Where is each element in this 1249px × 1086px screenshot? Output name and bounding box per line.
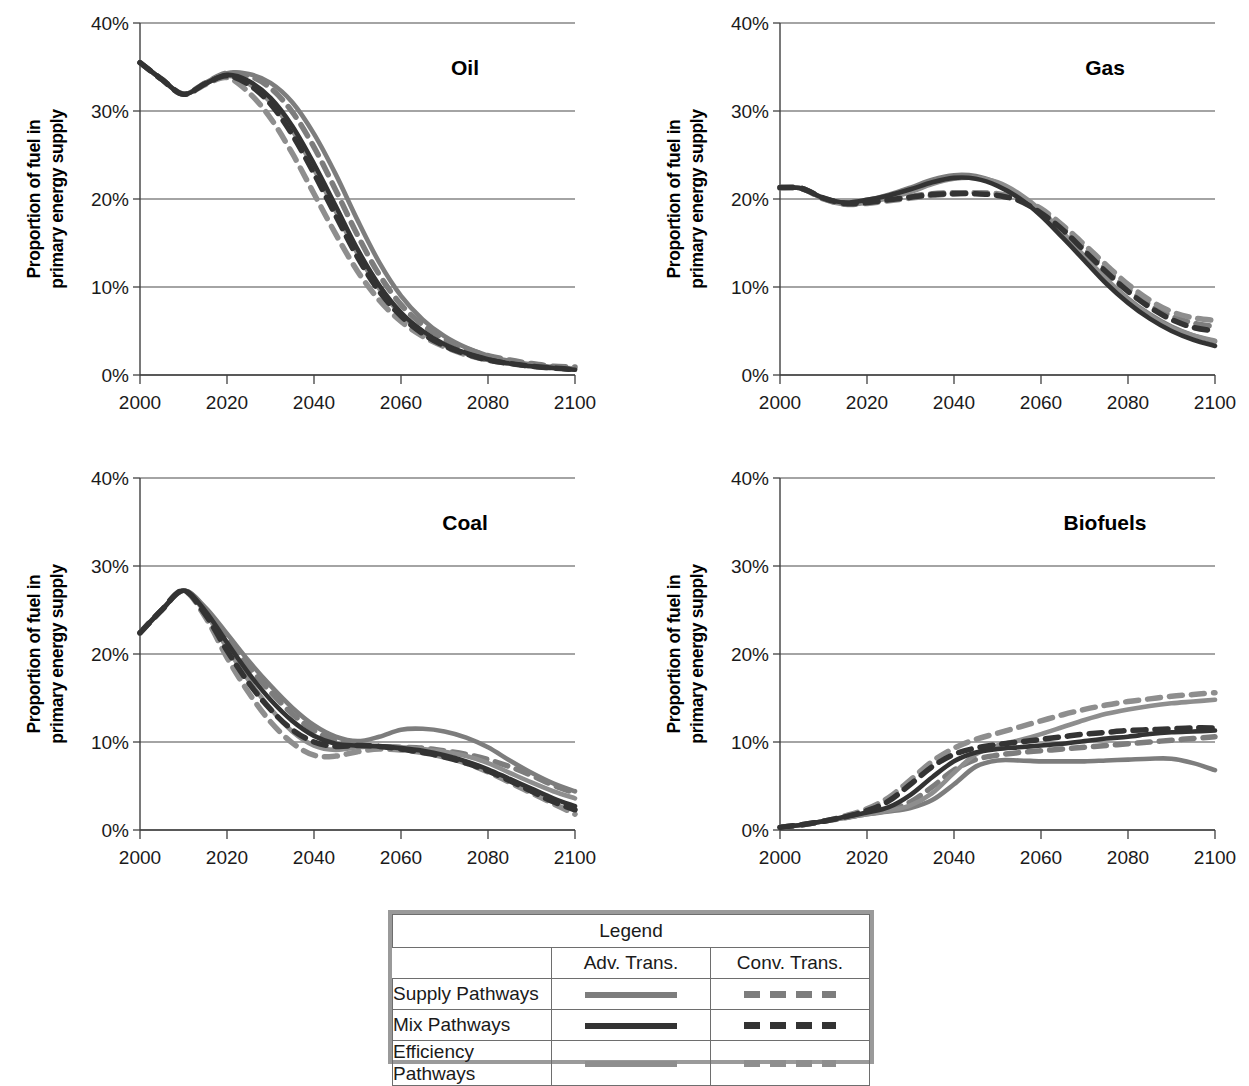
x-tick-label-2040: 2040	[933, 847, 975, 868]
legend-swatch-mix-adv	[552, 1010, 711, 1041]
y-tick-label-0pct: 0%	[742, 820, 770, 841]
y-tick-label-40pct: 40%	[91, 468, 129, 489]
y-tick-label-30pct: 30%	[731, 101, 769, 122]
legend: Legend Adv. Trans. Conv. Trans. Supply P…	[388, 910, 874, 1064]
legend-swatch-efficiency-adv	[552, 1041, 711, 1086]
x-tick-label-2060: 2060	[380, 847, 422, 868]
legend-corner-cell	[393, 948, 552, 979]
y-tick-label-20pct: 20%	[91, 644, 129, 665]
x-tick-label-2060: 2060	[380, 392, 422, 413]
series-line	[780, 187, 1215, 320]
x-tick-label-2080: 2080	[467, 392, 509, 413]
series-line	[140, 63, 575, 369]
y-axis-title-line-1: Proportion of fuel in	[24, 120, 44, 279]
legend-title: Legend	[393, 915, 870, 948]
legend-swatch-mix-conv	[711, 1010, 870, 1041]
x-tick-label-2000: 2000	[759, 847, 801, 868]
y-tick-label-10pct: 10%	[731, 732, 769, 753]
x-tick-label-2080: 2080	[1107, 392, 1149, 413]
legend-label-mix-pathways: Mix Pathways	[393, 1010, 552, 1041]
chart-svg: 0%10%20%30%40%200020202040206020802100Pr…	[640, 455, 1249, 875]
y-axis-title-line-2: primary energy supply	[687, 564, 707, 744]
y-axis-title-line-2: primary energy supply	[47, 564, 67, 744]
y-axis-title-line-1: Proportion of fuel in	[664, 120, 684, 279]
y-axis: 0%10%20%30%40%	[731, 13, 780, 386]
x-tick-label-2040: 2040	[293, 847, 335, 868]
solid-line-swatch-mix	[585, 1023, 677, 1029]
y-tick-label-20pct: 20%	[91, 189, 129, 210]
series-line	[780, 187, 1215, 326]
x-tick-label-2000: 2000	[759, 392, 801, 413]
x-tick-label-2020: 2020	[206, 847, 248, 868]
y-tick-label-30pct: 30%	[91, 101, 129, 122]
legend-row-supply: Supply Pathways	[393, 979, 870, 1010]
legend-label-efficiency-pathways: Efficiency Pathways	[393, 1041, 552, 1086]
x-tick-label-2000: 2000	[119, 847, 161, 868]
x-tick-label-2020: 2020	[206, 392, 248, 413]
x-tick-label-2100: 2100	[1194, 392, 1236, 413]
x-axis: 200020202040206020802100	[759, 375, 1236, 413]
y-tick-label-0pct: 0%	[102, 365, 130, 386]
panel-title: Oil	[451, 56, 479, 79]
x-axis: 200020202040206020802100	[119, 375, 596, 413]
legend-title-row: Legend	[393, 915, 870, 948]
series-line	[780, 700, 1215, 828]
solid-line-swatch-supply	[585, 992, 677, 998]
gridlines	[780, 478, 1215, 830]
x-axis: 200020202040206020802100	[119, 830, 596, 868]
gridlines	[780, 23, 1215, 375]
legend-label-supply-pathways: Supply Pathways	[393, 979, 552, 1010]
x-tick-label-2080: 2080	[467, 847, 509, 868]
panel-title: Biofuels	[1064, 511, 1147, 534]
x-axis: 200020202040206020802100	[759, 830, 1236, 868]
y-tick-label-40pct: 40%	[91, 13, 129, 34]
legend-table: Legend Adv. Trans. Conv. Trans. Supply P…	[392, 914, 870, 1086]
series-group	[140, 591, 575, 815]
y-axis-title-line-2: primary energy supply	[47, 109, 67, 289]
y-tick-label-40pct: 40%	[731, 13, 769, 34]
y-axis: 0%10%20%30%40%	[731, 468, 780, 841]
y-tick-label-20pct: 20%	[731, 644, 769, 665]
x-tick-label-2000: 2000	[119, 392, 161, 413]
chart-panel-oil: 0%10%20%30%40%200020202040206020802100Pr…	[0, 0, 609, 420]
x-tick-label-2060: 2060	[1020, 847, 1062, 868]
series-group	[140, 63, 575, 370]
x-tick-label-2100: 2100	[554, 392, 596, 413]
legend-swatch-supply-adv	[552, 979, 711, 1010]
x-tick-label-2060: 2060	[1020, 392, 1062, 413]
legend-row-mix: Mix Pathways	[393, 1010, 870, 1041]
x-tick-label-2040: 2040	[293, 392, 335, 413]
series-group	[780, 693, 1215, 828]
y-tick-label-30pct: 30%	[91, 556, 129, 577]
y-tick-label-10pct: 10%	[91, 277, 129, 298]
chart-panel-gas: 0%10%20%30%40%200020202040206020802100Pr…	[640, 0, 1249, 420]
dashed-line-swatch-mix	[744, 1022, 836, 1029]
chart-panel-biofuels: 0%10%20%30%40%200020202040206020802100Pr…	[640, 455, 1249, 875]
legend-column-header-row: Adv. Trans. Conv. Trans.	[393, 948, 870, 979]
y-axis-title-line-1: Proportion of fuel in	[24, 575, 44, 734]
y-axis-title: Proportion of fuel inprimary energy supp…	[24, 109, 67, 289]
x-tick-label-2080: 2080	[1107, 847, 1149, 868]
dashed-line-swatch-supply	[744, 991, 836, 998]
legend-column-conv-trans: Conv. Trans.	[711, 948, 870, 979]
series-group	[780, 175, 1215, 346]
series-line	[780, 187, 1215, 331]
legend-swatch-supply-conv	[711, 979, 870, 1010]
gridlines	[140, 23, 575, 375]
chart-svg: 0%10%20%30%40%200020202040206020802100Pr…	[0, 0, 609, 420]
x-tick-label-2100: 2100	[1194, 847, 1236, 868]
x-tick-label-2040: 2040	[933, 392, 975, 413]
legend-column-adv-trans: Adv. Trans.	[552, 948, 711, 979]
dashed-line-swatch-efficiency	[744, 1060, 836, 1067]
y-axis-title: Proportion of fuel inprimary energy supp…	[664, 564, 707, 744]
y-tick-label-40pct: 40%	[731, 468, 769, 489]
y-axis: 0%10%20%30%40%	[91, 468, 140, 841]
chart-svg: 0%10%20%30%40%200020202040206020802100Pr…	[640, 0, 1249, 420]
y-axis-title: Proportion of fuel inprimary energy supp…	[24, 564, 67, 744]
y-tick-label-0pct: 0%	[102, 820, 130, 841]
series-line	[140, 63, 575, 367]
solid-line-swatch-efficiency	[585, 1061, 677, 1067]
legend-swatch-efficiency-conv	[711, 1041, 870, 1086]
y-axis-title: Proportion of fuel inprimary energy supp…	[664, 109, 707, 289]
y-tick-label-20pct: 20%	[731, 189, 769, 210]
